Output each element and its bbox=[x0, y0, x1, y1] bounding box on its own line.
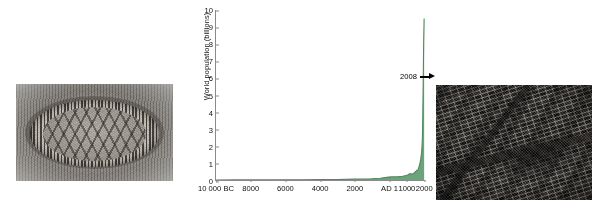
photo-vignette bbox=[16, 84, 173, 181]
x-tick-6000: 6000 bbox=[277, 184, 294, 193]
population-curve-svg bbox=[216, 10, 425, 180]
population-line-path bbox=[216, 19, 424, 180]
modern-city-aerial-photo bbox=[436, 85, 592, 200]
annotation-2008: 2008 bbox=[400, 72, 435, 81]
plot-area: 012345678910 10 000 BC8000600040002000AD… bbox=[215, 10, 425, 181]
x-tick-10-000-bc: 10 000 BC bbox=[198, 184, 234, 193]
y-tick-7: 7 bbox=[209, 57, 216, 66]
photo-vignette bbox=[436, 85, 592, 200]
annotation-2008-label: 2008 bbox=[400, 72, 417, 81]
population-fill-path bbox=[216, 19, 424, 181]
y-tick-5: 5 bbox=[209, 91, 216, 100]
y-tick-1: 1 bbox=[209, 159, 216, 168]
y-tick-9: 9 bbox=[209, 23, 216, 32]
x-tick-ad-1: AD 1 bbox=[381, 184, 398, 193]
right-arrow-icon bbox=[420, 73, 435, 80]
y-tick-2: 2 bbox=[209, 142, 216, 151]
y-tick-4: 4 bbox=[209, 108, 216, 117]
ancient-settlement-photo bbox=[16, 84, 173, 181]
y-tick-10: 10 bbox=[205, 6, 216, 15]
y-tick-8: 8 bbox=[209, 40, 216, 49]
y-tick-3: 3 bbox=[209, 125, 216, 134]
y-tick-6: 6 bbox=[209, 74, 216, 83]
x-tick-8000: 8000 bbox=[242, 184, 259, 193]
x-tick-1000: 1000 bbox=[398, 184, 415, 193]
x-tick-2000: 2000 bbox=[416, 184, 433, 193]
x-tick-4000: 4000 bbox=[312, 184, 329, 193]
world-population-chart: World population (billions) 012345678910… bbox=[188, 0, 438, 200]
x-tick-2000: 2000 bbox=[346, 184, 363, 193]
population-area-series bbox=[216, 10, 425, 180]
